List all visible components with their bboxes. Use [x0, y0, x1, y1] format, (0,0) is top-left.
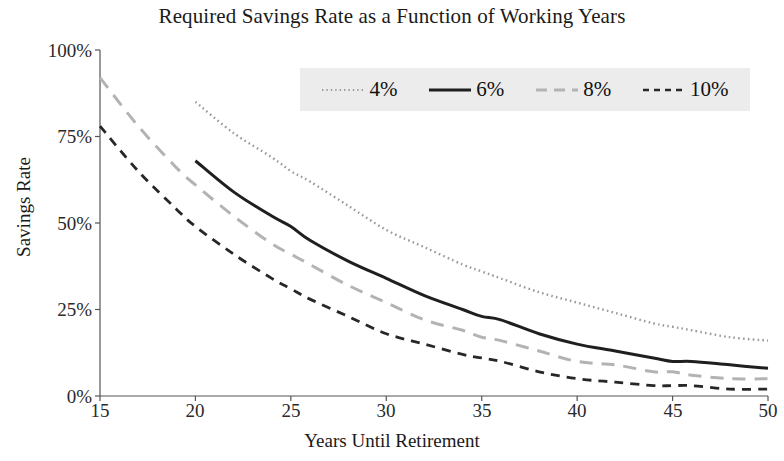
legend-item-8pct: 8% [535, 79, 611, 100]
legend-label: 4% [369, 79, 397, 100]
legend-swatch-solid-icon [428, 83, 472, 97]
y-tick-label: 100% [8, 41, 92, 60]
y-tick-label: 25% [8, 300, 92, 319]
x-tick-label: 15 [70, 400, 130, 422]
y-axis-title: Savings Rate [13, 117, 35, 297]
x-tick-label: 25 [261, 400, 321, 422]
legend-label: 8% [583, 79, 611, 100]
legend-label: 6% [476, 79, 504, 100]
x-tick-label: 20 [165, 400, 225, 422]
series-line-8pct [100, 78, 768, 379]
legend-swatch-dashed-icon [642, 83, 686, 97]
data-series [100, 78, 768, 390]
x-tick-label: 45 [643, 400, 703, 422]
x-tick-label: 50 [738, 400, 784, 422]
chart-legend: 4% 6% 8% 10% [300, 68, 750, 111]
legend-swatch-dotted-icon [321, 83, 365, 97]
chart-container: Required Savings Rate as a Function of W… [0, 0, 784, 461]
x-tick-label: 30 [356, 400, 416, 422]
legend-item-10pct: 10% [642, 79, 729, 100]
legend-item-6pct: 6% [428, 79, 504, 100]
legend-item-4pct: 4% [321, 79, 397, 100]
x-tick-label: 35 [452, 400, 512, 422]
x-axis-title: Years Until Retirement [0, 430, 784, 452]
legend-swatch-longdash-icon [535, 83, 579, 97]
x-tick-label: 40 [547, 400, 607, 422]
legend-label: 10% [690, 79, 729, 100]
